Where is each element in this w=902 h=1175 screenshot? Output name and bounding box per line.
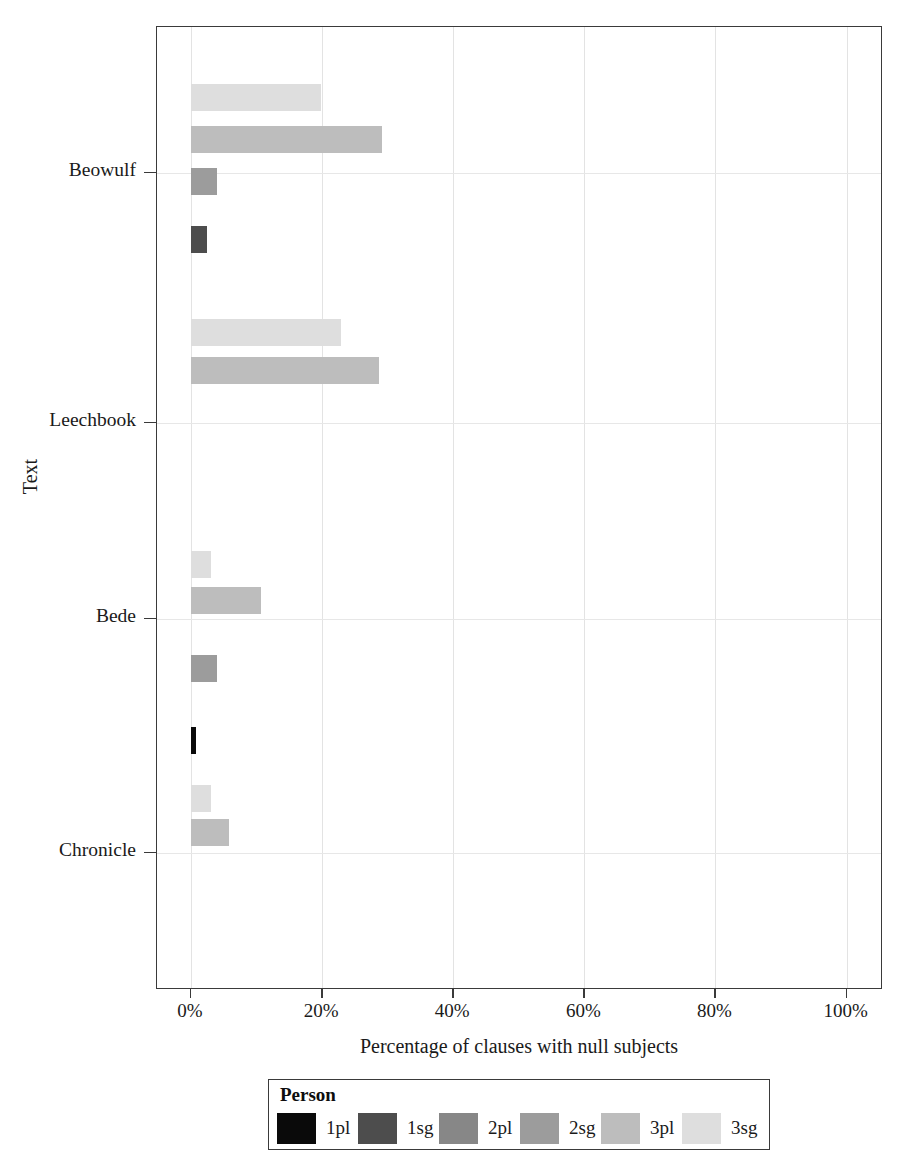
bar-beowulf-1sg: [191, 226, 207, 253]
gridline-horizontal-bede: [157, 619, 881, 620]
gridline-horizontal-chronicle: [157, 853, 881, 854]
bar-beowulf-3sg: [191, 84, 321, 111]
x-tick-mark-40: [452, 989, 453, 998]
gridline-horizontal-beowulf: [157, 173, 881, 174]
y-tick-label-leechbook: Leechbook: [49, 409, 136, 431]
x-tick-mark-100: [846, 989, 847, 998]
y-tick-mark-beowulf: [144, 172, 156, 173]
gridline-vertical-80: [715, 27, 716, 988]
x-tick-label-0: 0%: [145, 1000, 235, 1022]
bar-bede-3pl: [191, 587, 261, 614]
x-tick-mark-20: [321, 989, 322, 998]
legend-item-1sg[interactable]: 1sg: [358, 1113, 439, 1144]
legend-label-2sg: 2sg: [569, 1117, 595, 1139]
bar-bede-3sg: [191, 551, 211, 578]
x-tick-label-100: 100%: [801, 1000, 891, 1022]
plot-area: [156, 26, 882, 989]
gridline-vertical-20: [322, 27, 323, 988]
y-tick-mark-bede: [144, 618, 156, 619]
legend-swatch-1pl: [277, 1113, 316, 1144]
y-tick-mark-chronicle: [144, 852, 156, 853]
legend-item-2sg[interactable]: 2sg: [520, 1113, 601, 1144]
gridline-vertical-40: [453, 27, 454, 988]
legend-item-2pl[interactable]: 2pl: [439, 1113, 520, 1144]
x-tick-label-60: 60%: [538, 1000, 628, 1022]
legend-label-1sg: 1sg: [407, 1117, 433, 1139]
x-tick-mark-80: [714, 989, 715, 998]
x-tick-label-20: 20%: [276, 1000, 366, 1022]
legend-item-3pl[interactable]: 3pl: [601, 1113, 682, 1144]
y-tick-mark-leechbook: [144, 422, 156, 423]
legend-label-3pl: 3pl: [650, 1117, 674, 1139]
legend-label-2pl: 2pl: [488, 1117, 512, 1139]
x-tick-mark-0: [190, 989, 191, 998]
legend-label-3sg: 3sg: [731, 1117, 757, 1139]
x-axis-title: Percentage of clauses with null subjects: [156, 1035, 882, 1058]
legend-title: Person: [280, 1084, 336, 1106]
legend-swatch-3pl: [601, 1113, 640, 1144]
bar-leechbook-3pl: [191, 357, 379, 384]
gridline-vertical-60: [584, 27, 585, 988]
legend-swatch-2pl: [439, 1113, 478, 1144]
legend-swatch-3sg: [682, 1113, 721, 1144]
gridline-vertical-100: [847, 27, 848, 988]
gridline-horizontal-leechbook: [157, 423, 881, 424]
legend-swatch-2sg: [520, 1113, 559, 1144]
bar-chronicle-1pl: [191, 727, 196, 754]
legend-item-1pl[interactable]: 1pl: [277, 1113, 358, 1144]
bar-chronicle-3pl: [191, 819, 229, 846]
x-tick-label-80: 80%: [669, 1000, 759, 1022]
legend-item-3sg[interactable]: 3sg: [682, 1113, 763, 1144]
bar-bede-2sg: [191, 655, 217, 682]
legend-swatch-1sg: [358, 1113, 397, 1144]
bar-chart-figure: Text BeowulfLeechbookBedeChronicle 0%20%…: [0, 0, 902, 1175]
bar-leechbook-3sg: [191, 319, 341, 346]
legend: Person 1pl1sg2pl2sg3pl3sg: [268, 1079, 770, 1150]
y-tick-label-bede: Bede: [96, 605, 136, 627]
bar-chronicle-3sg: [191, 785, 211, 812]
x-tick-mark-60: [583, 989, 584, 998]
bar-beowulf-3pl: [191, 126, 382, 153]
y-tick-label-beowulf: Beowulf: [69, 159, 136, 181]
y-axis-title: Text: [19, 427, 42, 527]
legend-items: 1pl1sg2pl2sg3pl3sg: [277, 1111, 763, 1145]
legend-label-1pl: 1pl: [326, 1117, 350, 1139]
x-tick-label-40: 40%: [407, 1000, 497, 1022]
bar-beowulf-2sg: [191, 168, 217, 195]
y-tick-label-chronicle: Chronicle: [59, 839, 136, 861]
